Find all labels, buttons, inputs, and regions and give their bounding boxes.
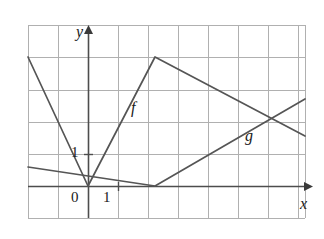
y-axis-tick-label-1: 1	[71, 145, 79, 160]
function-curves	[28, 57, 305, 186]
grid-lines	[28, 25, 306, 219]
curve-g	[28, 99, 305, 186]
origin-label: 0	[71, 190, 79, 205]
x-axis-tick-label-1: 1	[103, 190, 111, 205]
y-axis-arrowhead	[84, 25, 93, 34]
curve-label-f: f	[131, 100, 135, 116]
grid-horizontal-lines	[28, 26, 305, 219]
x-axis-label: x	[300, 196, 307, 212]
graph-figure: y x f g 1 1 0	[0, 0, 324, 239]
curve-label-g: g	[245, 128, 253, 144]
curve-f	[28, 57, 305, 186]
x-axis-arrowhead	[304, 182, 313, 191]
y-axis-label: y	[76, 24, 83, 40]
coordinate-graph	[0, 0, 324, 239]
